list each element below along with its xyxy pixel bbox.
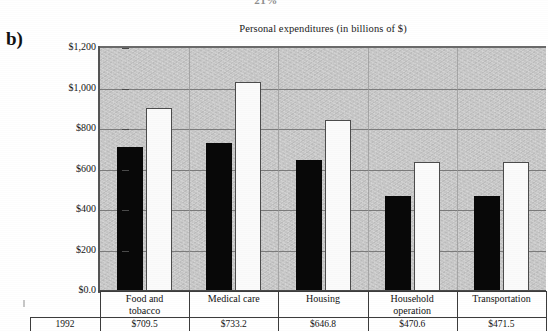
- table-value-cell: $471.5: [457, 318, 546, 331]
- bar-series1: [117, 147, 143, 291]
- bar-series1: [385, 196, 411, 291]
- y-axis-tick-mark: [122, 129, 129, 130]
- y-axis-tick-mark: [122, 170, 129, 171]
- group-separator: [457, 48, 458, 291]
- y-axis-tick-label: $1,200: [34, 42, 96, 52]
- y-axis-tick-label: $1,000: [34, 83, 96, 93]
- y-axis-tick-labels: $1,200$1,000$800$600$400$200$0.0: [30, 0, 96, 331]
- y-axis-tick-label: $200: [34, 245, 96, 255]
- table-value-cell: $733.2: [189, 318, 278, 331]
- plot-area: [100, 48, 546, 291]
- y-axis-tick-label: $600: [34, 164, 96, 174]
- table-row-label: 1992: [30, 318, 100, 331]
- category-label-line: Housing: [278, 293, 367, 305]
- clipped-top-text: 21%: [236, 0, 296, 6]
- bar-series1: [474, 196, 500, 291]
- group-separator: [189, 48, 190, 291]
- category-label-line: Household: [368, 293, 457, 305]
- y-axis-tick-mark: [122, 48, 129, 49]
- bar-series1: [296, 160, 322, 291]
- y-axis-tick-label: $0.0: [34, 285, 96, 295]
- category-label-cell: Medical care: [189, 292, 278, 315]
- y-axis-tick-mark: [122, 251, 129, 252]
- bar-series1: [206, 143, 232, 291]
- category-label-cell: Food andtobacco: [100, 292, 189, 315]
- category-label-line: Transportation: [457, 293, 546, 305]
- category-label-line: Medical care: [189, 293, 278, 305]
- category-label-line: Food and: [100, 293, 189, 305]
- bar-series2: [414, 162, 440, 291]
- table-value-cell: $709.5: [100, 318, 189, 331]
- bar-series2: [146, 108, 172, 291]
- table-value-cell: $646.8: [278, 318, 367, 331]
- axis-top-rule: [98, 46, 546, 48]
- y-axis-tick-mark: [122, 89, 129, 90]
- category-label-cell: Transportation: [457, 292, 546, 315]
- axis-left-rule: [98, 46, 100, 293]
- table-rule: [546, 291, 547, 331]
- y-axis-tick-mark: [122, 210, 129, 211]
- bar-series2: [503, 162, 529, 291]
- category-label-cell: Housing: [278, 292, 367, 315]
- group-separator: [368, 48, 369, 291]
- y-axis-tick-label: $800: [34, 123, 96, 133]
- category-label-cell: Householdoperation: [368, 292, 457, 315]
- figure-panel: 21% b) Personal expenditures (in billion…: [0, 0, 548, 331]
- bar-series2: [235, 82, 261, 291]
- category-label-line: operation: [368, 305, 457, 317]
- table-value-cell: $470.6: [368, 318, 457, 331]
- y-axis-tick-label: $400: [34, 204, 96, 214]
- bar-series2: [325, 120, 351, 291]
- panel-letter: b): [6, 28, 23, 50]
- chart-title: Personal expenditures (in billions of $): [100, 23, 546, 34]
- gridline: [100, 89, 546, 90]
- category-label-line: tobacco: [100, 305, 189, 317]
- group-separator: [278, 48, 279, 291]
- scan-artifact: [23, 300, 25, 307]
